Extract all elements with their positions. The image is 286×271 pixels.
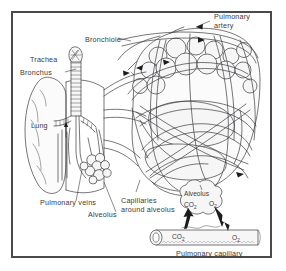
pulmonary-gas-exchange-diagram: Pulmonary artery Bronchiole Trachea Bron… [0,0,286,271]
inset-capillary-tube [150,226,260,245]
label-pulmonary-artery-line1: Pulmonary [214,12,250,21]
flow-arrow-lower-right [236,172,244,178]
lung-lobe [25,77,66,193]
leader-capillaries [136,180,140,192]
label-pulmonary-capillary: Pulmonary capillary [176,249,243,258]
label-pulmonary-veins: Pulmonary veins [40,198,96,207]
label-bronchus: Bronchus [20,68,52,77]
flow-arrow-bronchiole [123,71,130,76]
ringed-trachea [69,47,82,116]
label-alveolus-left: Alveolus [88,210,117,219]
leader-alveolus-left [104,182,116,212]
label-pulmonary-artery-line2: artery [214,21,234,30]
leader-pulmonary-veins [76,170,82,201]
label-trachea: Trachea [30,55,58,64]
label-bronchiole: Bronchiole [85,35,121,44]
label-alveolus-inset: Alveolus [184,190,210,197]
diagram-canvas: Pulmonary artery Bronchiole Trachea Bron… [0,0,286,271]
label-capillaries-line1: Capillaries [121,196,157,205]
label-capillaries-line2: around alveolus [121,205,175,214]
alveolar-sac-cluster [132,28,260,196]
alveolar-clusters [80,153,111,184]
label-lung: Lung [31,121,48,130]
